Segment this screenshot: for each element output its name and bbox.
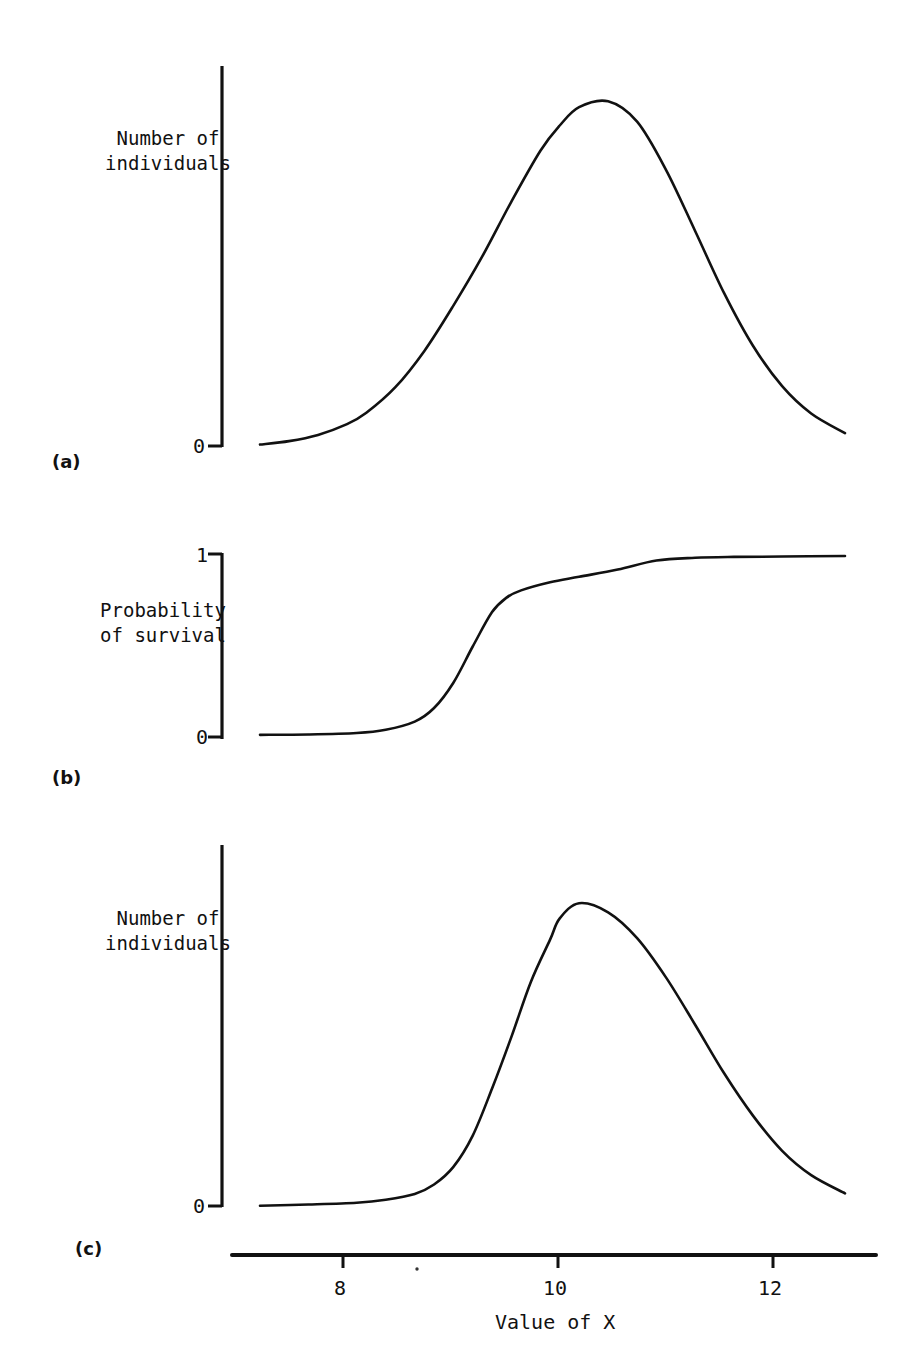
panel-c-y-axis-label: Number ofindividuals [88, 906, 248, 956]
panel-label-c: (c) [75, 1238, 102, 1259]
panel-c-y-axis-label-line1: Number of [117, 907, 220, 929]
panel-b-y-axis-label-line1: Probability [100, 599, 226, 621]
panel-a-y-axis-label-line1: Number of [117, 127, 220, 149]
panel-b-y-tick-label-1: 1 [196, 543, 208, 567]
x-axis-tick-label-12: 12 [758, 1276, 782, 1300]
x-axis-tick-label-10: 10 [543, 1276, 567, 1300]
panel-label-b: (b) [52, 767, 81, 788]
panel-c-y-axis-label-line2: individuals [105, 932, 231, 954]
panel-b-y-axis-label: Probabilityof survival [78, 598, 248, 648]
scan-speck [415, 1267, 418, 1270]
x-axis-title: Value of X [495, 1310, 615, 1334]
x-axis-tick-label-8: 8 [334, 1276, 346, 1300]
panel-b-y-axis-label-line2: of survival [100, 624, 226, 646]
panel-a-y-tick-label-0: 0 [193, 434, 205, 458]
panel-label-a: (a) [52, 451, 81, 472]
panel-b-y-tick-label-0: 0 [196, 725, 208, 749]
panel-a-y-axis-label: Number ofindividuals [88, 126, 248, 176]
panel-a-y-axis-label-line2: individuals [105, 152, 231, 174]
panel-c-y-tick-label-0: 0 [193, 1194, 205, 1218]
figure-canvas [0, 0, 915, 1348]
